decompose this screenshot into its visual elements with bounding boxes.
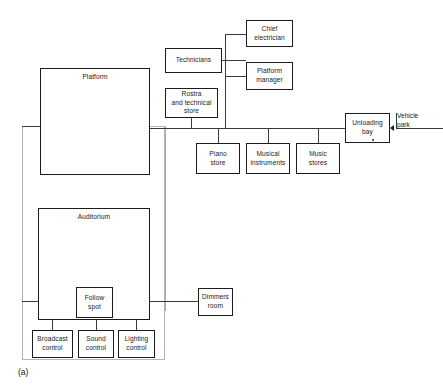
node-lighting-control-label: Lighting control: [125, 335, 149, 352]
node-dimmers-room-label: Dimmers room: [202, 293, 229, 310]
node-music-stores[interactable]: Music stores: [296, 143, 340, 174]
connector-branch-trunk-vertical: [225, 34, 226, 128]
connector-bus-to-music-stores: [318, 128, 319, 143]
figure-caption: (a): [18, 367, 28, 377]
node-platform[interactable]: Platform: [40, 68, 150, 175]
connector-bus-to-piano-store: [218, 128, 219, 143]
connector-auditorium-to-lighting-control: [136, 320, 137, 330]
node-music-stores-label: Music stores: [309, 150, 327, 167]
enclosure-inner-divider: [165, 126, 166, 311]
connector-auditorium-to-broadcast-control: [52, 320, 53, 330]
node-lighting-control[interactable]: Lighting control: [118, 330, 155, 358]
node-technicians-label: Technicians: [176, 56, 211, 65]
node-sound-control-label: Sound control: [86, 335, 106, 352]
node-broadcast-control[interactable]: Broadcast control: [32, 330, 73, 358]
facility-adjacency-diagram: Platform Technicians Rostra and technica…: [0, 0, 443, 388]
connector-rostra-store-to-bus: [191, 118, 192, 128]
label-vehicle-park: Vehicle park: [397, 112, 441, 129]
node-musical-instruments-label: Musical instruments: [251, 150, 286, 167]
node-piano-store[interactable]: Piano store: [196, 143, 240, 174]
connector-bus-to-musical-instruments: [268, 128, 269, 143]
unloading-bay-marker-dot: [372, 139, 374, 141]
node-platform-label: Platform: [82, 73, 107, 82]
connector-trunk-to-platform-manager: [225, 76, 246, 77]
connector-platform-left-stub: [22, 126, 40, 127]
node-unloading-bay-label: Unloading bay: [352, 119, 382, 136]
node-chief-electrician[interactable]: Chief electrician: [246, 20, 293, 47]
arrow-into-unloading-bay-icon: [390, 125, 394, 131]
node-technicians[interactable]: Technicians: [165, 48, 222, 73]
node-platform-manager[interactable]: Platform manager: [246, 62, 293, 90]
node-broadcast-control-label: Broadcast control: [37, 335, 67, 352]
node-sound-control[interactable]: Sound control: [78, 330, 114, 358]
node-chief-electrician-label: Chief electrician: [254, 25, 285, 42]
node-piano-store-label: Piano store: [209, 150, 226, 167]
node-unloading-bay[interactable]: Unloading bay: [345, 113, 390, 143]
node-dimmers-room[interactable]: Dimmers room: [198, 288, 233, 316]
connector-main-service-bus: [150, 128, 345, 129]
node-auditorium-label: Auditorium: [78, 213, 110, 222]
connector-trunk-to-chief-electrician: [225, 34, 246, 35]
node-rostra-and-technical-store-label: Rostra and technical store: [172, 90, 212, 116]
node-rostra-and-technical-store[interactable]: Rostra and technical store: [165, 88, 218, 118]
node-follow-spot-label: Follow spot: [85, 294, 105, 311]
connector-auditorium-to-sound-control: [96, 320, 97, 330]
node-follow-spot[interactable]: Follow spot: [76, 287, 113, 318]
node-platform-manager-label: Platform manager: [256, 67, 283, 84]
connector-technicians-to-trunk: [222, 60, 246, 61]
node-musical-instruments[interactable]: Musical instruments: [246, 143, 290, 174]
